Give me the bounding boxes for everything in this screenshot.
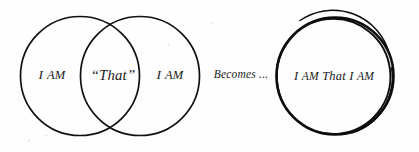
- label-i-am-left: I AM: [39, 68, 66, 82]
- label-i-am-that-i-am: I AM That I AM: [294, 70, 374, 83]
- label-i-am-right-am: AM: [165, 68, 184, 82]
- label-i-am-right: I AM: [157, 68, 184, 82]
- label-union-a: I: [294, 69, 302, 83]
- label-union-b: AM: [302, 70, 319, 83]
- diagram-canvas: I AM “That” I AM Becomes ... I AM That I…: [0, 0, 419, 152]
- result-circle-overdraw-arc-top: [300, 10, 389, 53]
- label-union-d: AM: [357, 70, 374, 83]
- label-i-am-left-am: AM: [47, 68, 66, 82]
- label-that-intersection: “That”: [91, 68, 136, 83]
- label-becomes-connector: Becomes ...: [214, 69, 269, 81]
- label-union-c: That I: [319, 69, 357, 83]
